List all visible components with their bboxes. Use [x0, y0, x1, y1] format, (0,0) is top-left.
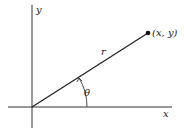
point-label: (x, y): [152, 27, 178, 38]
radius-label: r: [101, 46, 107, 57]
y-axis-label: y: [35, 4, 42, 15]
point-marker: [146, 31, 151, 36]
polar-diagram: y x r θ (x, y): [0, 0, 184, 133]
x-axis-label: x: [163, 108, 169, 119]
angle-label: θ: [84, 87, 90, 98]
